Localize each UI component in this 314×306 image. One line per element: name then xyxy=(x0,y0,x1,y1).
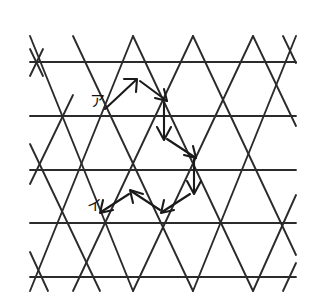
traversal-path xyxy=(100,79,201,213)
start-label: ア xyxy=(90,92,105,110)
diagonal-down-8 xyxy=(30,144,100,291)
path-segment-6 xyxy=(161,194,190,213)
lattice-diagonal-down-lines xyxy=(30,36,296,291)
end-label: イ xyxy=(87,196,102,214)
lattice-figure: ア イ xyxy=(0,0,314,306)
lattice-diagonal-up-lines xyxy=(30,36,296,291)
path-segment-2 xyxy=(140,81,167,101)
lattice-diagram-svg: ア イ xyxy=(0,0,314,306)
path-segment-8 xyxy=(100,194,129,213)
path-segment-7 xyxy=(130,190,160,210)
diagonal-up-6 xyxy=(193,36,296,291)
path-segment-4 xyxy=(167,139,196,158)
